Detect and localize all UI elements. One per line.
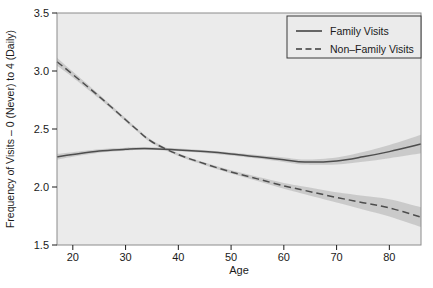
legend-label-1[interactable]: Family Visits (330, 25, 389, 37)
x-tick-label: 40 (172, 251, 184, 263)
y-tick-label: 3.5 (34, 7, 49, 19)
legend-label-2[interactable]: Non–Family Visits (330, 43, 414, 55)
x-axis-label: Age (229, 264, 249, 276)
chart-legend[interactable]: Family VisitsNon–Family Visits (287, 16, 421, 58)
y-tick-label: 3.0 (34, 65, 49, 77)
x-tick-label: 70 (330, 251, 342, 263)
y-axis-label: Frequency of Visits – 0 (Never) to 4 (Da… (4, 30, 16, 228)
x-tick-label: 30 (119, 251, 131, 263)
x-tick-label: 80 (383, 251, 395, 263)
x-tick-label: 60 (278, 251, 290, 263)
x-tick-label: 50 (225, 251, 237, 263)
x-tick-label: 20 (67, 251, 79, 263)
y-tick-label: 2.5 (34, 123, 49, 135)
y-tick-label: 2.0 (34, 181, 49, 193)
y-tick-label: 1.5 (34, 239, 49, 251)
frequency-of-visits-by-age-chart: 20304050607080 1.52.02.53.03.5 Age Frequ… (0, 0, 433, 288)
